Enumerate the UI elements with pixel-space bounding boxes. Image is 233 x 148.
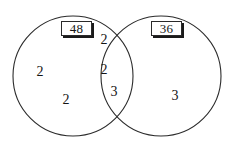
intersection-factor: 3 — [107, 85, 121, 99]
left-only-factor: 2 — [59, 93, 73, 107]
set-label-left: 48 — [61, 21, 92, 36]
right-only-factor: 3 — [168, 89, 182, 103]
intersection-factor: 2 — [97, 63, 111, 77]
intersection-factor: 2 — [97, 33, 111, 47]
set-label-right: 36 — [151, 21, 182, 36]
venn-diagram: 48 36 2 2 2 2 3 3 — [0, 0, 233, 148]
left-only-factor: 2 — [33, 65, 47, 79]
